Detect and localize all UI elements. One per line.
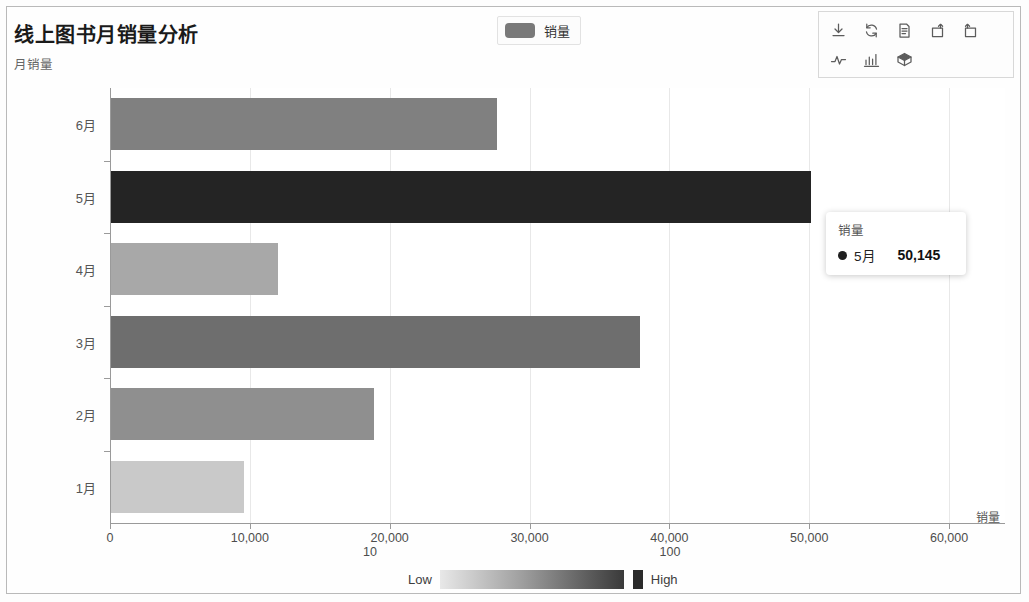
- x-tick-label: 40,000: [650, 531, 688, 545]
- color-scale-high-label: High: [651, 572, 678, 587]
- document-icon[interactable]: [891, 17, 918, 44]
- color-scale-low-label: Low: [408, 572, 432, 587]
- x-tick-label: 30,000: [510, 531, 548, 545]
- y-tick-label-1月: 1月: [0, 477, 96, 496]
- x-tick-label: 50,000: [790, 531, 828, 545]
- color-scale-gradient[interactable]: [440, 570, 624, 589]
- bar-1月[interactable]: [110, 461, 244, 513]
- x-axis-line: [110, 523, 1005, 524]
- gridline: [949, 88, 950, 523]
- y-axis-tick: [104, 306, 111, 307]
- legend-label-sales: 销量: [544, 21, 570, 40]
- page-title: 线上图书月销量分析: [14, 19, 199, 48]
- y-tick-label-2月: 2月: [0, 405, 96, 424]
- x-axis-sub-label: 10: [363, 545, 377, 559]
- y-axis-tick: [104, 161, 111, 162]
- y-axis-title: 月销量: [14, 54, 53, 73]
- color-scale-legend: Low High: [408, 570, 678, 589]
- x-axis-title: 销量: [976, 508, 1000, 525]
- bar-5月[interactable]: [110, 171, 811, 223]
- x-axis-tick: [669, 523, 670, 529]
- x-axis-tick: [530, 523, 531, 529]
- refresh-icon[interactable]: [858, 17, 885, 44]
- chart-toolbar[interactable]: [818, 11, 1014, 78]
- x-tick-label: 20,000: [371, 531, 409, 545]
- gridline: [390, 88, 391, 523]
- download-icon[interactable]: [825, 17, 852, 44]
- bar-2月[interactable]: [110, 388, 374, 440]
- gridline: [669, 88, 670, 523]
- x-tick-label: 0: [107, 531, 114, 545]
- x-axis-tick: [949, 523, 950, 529]
- plot-background: [110, 88, 1005, 523]
- tooltip-row: 5月 50,145: [838, 245, 952, 265]
- gridline: [809, 88, 810, 523]
- bar-6月[interactable]: [110, 98, 497, 150]
- x-axis-tick: [809, 523, 810, 529]
- gridline: [530, 88, 531, 523]
- y-tick-label-3月: 3月: [0, 332, 96, 351]
- x-axis-tick: [390, 523, 391, 529]
- color-scale-end-block: [633, 570, 643, 589]
- y-axis-tick: [104, 378, 111, 379]
- y-tick-label-4月: 4月: [0, 260, 96, 279]
- bar-3月[interactable]: [110, 316, 640, 368]
- chart-tooltip: 销量 5月 50,145: [826, 212, 966, 275]
- y-tick-label-6月: 6月: [0, 115, 96, 134]
- tooltip-category: 5月: [854, 245, 875, 265]
- tooltip-value: 50,145: [898, 247, 941, 263]
- tooltip-marker-dot: [838, 251, 847, 260]
- x-axis-tick: [250, 523, 251, 529]
- cube-icon[interactable]: [891, 46, 918, 73]
- x-tick-label: 60,000: [930, 531, 968, 545]
- x-tick-label: 10,000: [231, 531, 269, 545]
- bar-4月[interactable]: [110, 243, 278, 295]
- chart-screenshot: 线上图书月销量分析 月销量 销量: [0, 0, 1029, 602]
- y-tick-label-5月: 5月: [0, 187, 96, 206]
- x-axis-tick: [110, 523, 111, 529]
- plot-area: [110, 88, 1005, 523]
- redo-icon[interactable]: [924, 17, 951, 44]
- legend-swatch-sales: [505, 23, 535, 38]
- y-axis-tick: [104, 233, 111, 234]
- gridline: [250, 88, 251, 523]
- line-chart-icon[interactable]: [825, 46, 852, 73]
- series-legend[interactable]: 销量: [497, 16, 581, 45]
- y-axis-tick: [104, 451, 111, 452]
- tooltip-title: 销量: [838, 220, 952, 239]
- undo-icon[interactable]: [957, 17, 984, 44]
- x-axis-sub-label: 100: [660, 545, 681, 559]
- bar-chart-icon[interactable]: [858, 46, 885, 73]
